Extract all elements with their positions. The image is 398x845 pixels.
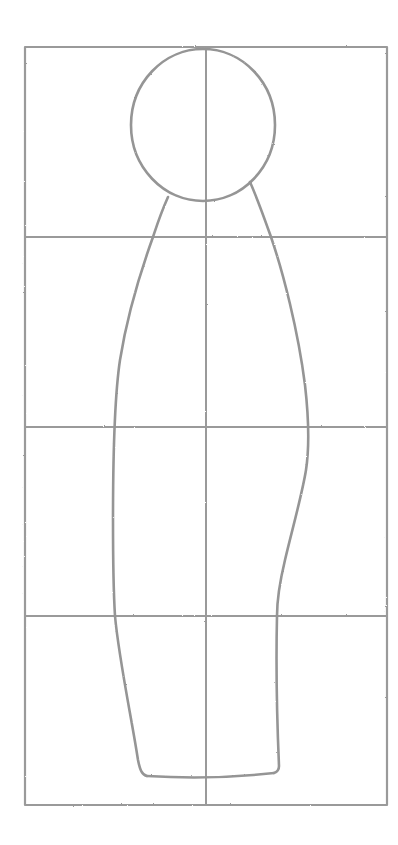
body-right-contour xyxy=(250,182,308,773)
figure-sketch xyxy=(0,0,398,845)
head-circle xyxy=(131,49,275,201)
sketch-canvas xyxy=(0,0,398,845)
figure-outline xyxy=(113,49,308,777)
body-left-contour xyxy=(113,197,168,776)
proportion-grid xyxy=(25,47,387,805)
body-base-line xyxy=(147,773,274,777)
